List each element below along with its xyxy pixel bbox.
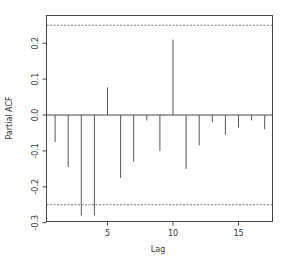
y-tick-label: -0.2 — [31, 179, 40, 195]
y-tick-label: 0.0 — [31, 109, 40, 122]
y-axis-title: Partial ACF — [5, 96, 14, 140]
y-axis: -0.3-0.2-0.10.00.10.2 — [31, 37, 47, 231]
y-tick-label: 0.2 — [31, 37, 40, 50]
pacf-chart: -0.3-0.2-0.10.00.10.2 51015 Partial ACF … — [0, 0, 286, 266]
x-axis: 51015 — [105, 222, 244, 239]
pacf-spikes — [55, 40, 265, 216]
y-tick-label: 0.1 — [31, 73, 40, 86]
x-axis-title: Lag — [151, 245, 165, 254]
x-tick-label: 5 — [105, 229, 110, 238]
y-tick-label: -0.1 — [31, 143, 40, 159]
y-tick-label: -0.3 — [31, 215, 40, 231]
x-tick-label: 15 — [233, 229, 243, 238]
x-tick-label: 10 — [168, 229, 178, 238]
